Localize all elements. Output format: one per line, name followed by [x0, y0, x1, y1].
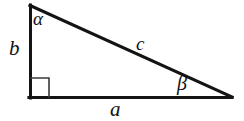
side-label-c: c — [136, 34, 144, 53]
triangle-side-c-line — [30, 6, 232, 98]
side-label-a: a — [110, 99, 121, 120]
angle-label-beta: β — [177, 73, 187, 93]
side-label-b: b — [9, 38, 20, 59]
angle-label-alpha: α — [33, 9, 43, 28]
right-triangle-figure: α β b c a — [0, 0, 244, 121]
right-angle-marker-icon — [31, 78, 49, 97]
